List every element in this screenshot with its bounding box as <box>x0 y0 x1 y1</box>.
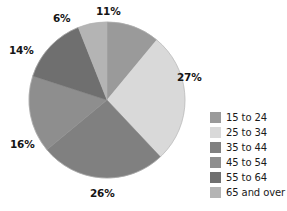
legend-swatch <box>210 172 221 183</box>
legend-item-label: 55 to 64 <box>226 173 267 183</box>
legend-swatch <box>210 157 221 168</box>
legend-swatch <box>210 127 221 138</box>
pie-chart-figure: 11% 27% 26% 16% 14% 6% 15 to 24 25 to 34… <box>0 0 287 211</box>
legend-item-label: 15 to 24 <box>226 113 267 123</box>
slice-data-label: 27% <box>177 72 202 83</box>
legend-item-label: 25 to 34 <box>226 128 267 138</box>
legend-item-label: 35 to 44 <box>226 143 267 153</box>
legend-swatch <box>210 187 221 198</box>
legend-item-label: 65 and over <box>226 188 285 198</box>
legend-item: 65 and over <box>210 185 287 200</box>
legend-swatch <box>210 142 221 153</box>
legend-item-label: 45 to 54 <box>226 158 267 168</box>
slice-data-label: 11% <box>96 6 121 17</box>
legend-item: 25 to 34 <box>210 125 287 140</box>
chart-legend: 15 to 24 25 to 34 35 to 44 45 to 54 55 t… <box>210 110 287 200</box>
slice-data-label: 6% <box>53 13 70 24</box>
pie-plot-area <box>0 0 200 211</box>
legend-item: 35 to 44 <box>210 140 287 155</box>
legend-swatch <box>210 112 221 123</box>
slice-data-label: 26% <box>90 188 115 199</box>
slice-data-label: 16% <box>10 139 35 150</box>
legend-item: 45 to 54 <box>210 155 287 170</box>
legend-item: 55 to 64 <box>210 170 287 185</box>
slice-data-label: 14% <box>9 45 34 56</box>
pie-svg <box>0 0 200 211</box>
legend-item: 15 to 24 <box>210 110 287 125</box>
